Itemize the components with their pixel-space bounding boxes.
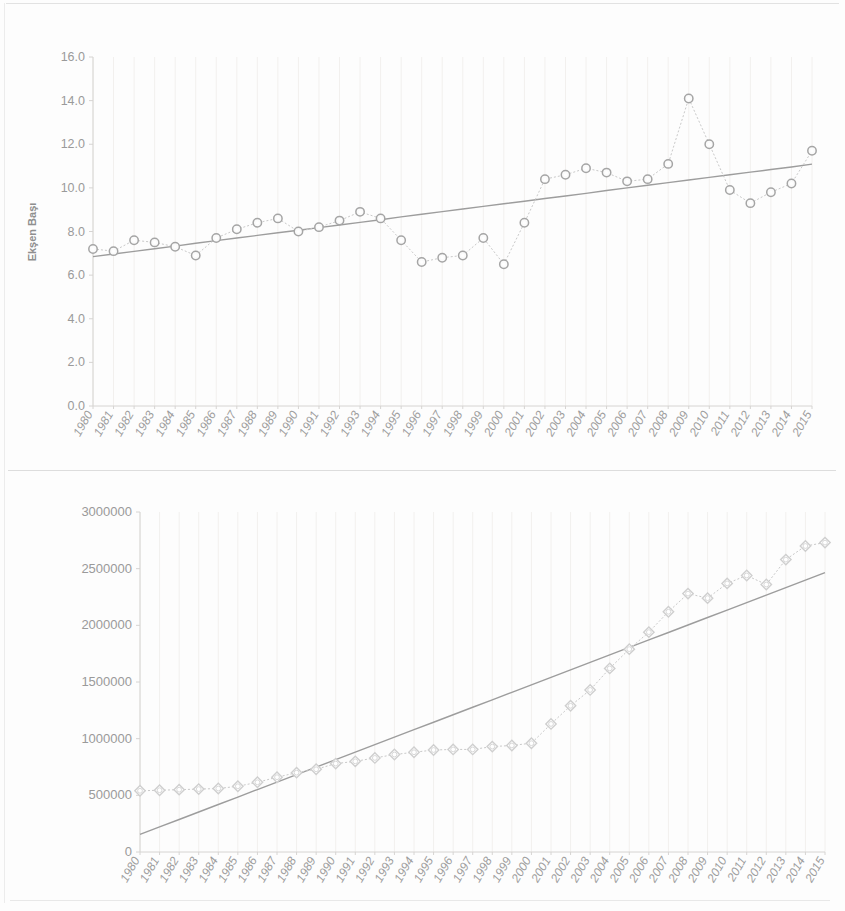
svg-text:1000000: 1000000 bbox=[81, 731, 132, 746]
svg-text:1999: 1999 bbox=[489, 854, 515, 884]
svg-text:1990: 1990 bbox=[276, 408, 302, 438]
svg-text:2012: 2012 bbox=[743, 854, 769, 885]
svg-text:14.0: 14.0 bbox=[61, 94, 85, 108]
bottom-chart-y-ticklabels: 0500000100000015000002000000250000030000… bbox=[81, 504, 132, 859]
svg-text:6.0: 6.0 bbox=[68, 268, 85, 282]
top-chart-gridlines bbox=[93, 57, 812, 406]
svg-text:4.0: 4.0 bbox=[68, 312, 85, 326]
svg-text:12.0: 12.0 bbox=[61, 137, 85, 151]
svg-text:1984: 1984 bbox=[152, 408, 178, 438]
svg-text:1985: 1985 bbox=[173, 408, 199, 438]
svg-text:2013: 2013 bbox=[762, 854, 788, 885]
svg-text:1988: 1988 bbox=[274, 854, 300, 884]
svg-text:1980: 1980 bbox=[117, 854, 143, 884]
svg-text:2007: 2007 bbox=[645, 853, 672, 885]
svg-text:2005: 2005 bbox=[606, 854, 632, 885]
svg-text:1992: 1992 bbox=[352, 854, 378, 884]
bottom-chart-axes bbox=[136, 512, 825, 855]
svg-text:2500000: 2500000 bbox=[81, 561, 132, 576]
svg-text:1981: 1981 bbox=[137, 855, 162, 885]
svg-text:2000000: 2000000 bbox=[81, 617, 132, 632]
svg-text:1989: 1989 bbox=[255, 408, 281, 438]
svg-text:1994: 1994 bbox=[358, 408, 384, 438]
svg-text:1985: 1985 bbox=[215, 854, 241, 884]
yield-per-unit-chart-svg: 0.02.04.06.08.010.012.014.016.0 19801981… bbox=[0, 0, 845, 462]
svg-text:2007: 2007 bbox=[624, 407, 651, 439]
svg-text:1991: 1991 bbox=[332, 855, 357, 885]
svg-text:2015: 2015 bbox=[789, 408, 815, 439]
svg-text:1993: 1993 bbox=[337, 408, 363, 438]
svg-text:500000: 500000 bbox=[89, 787, 132, 802]
bottom-chart-datapoints bbox=[135, 537, 830, 796]
bottom-chart-series-line bbox=[140, 543, 825, 791]
svg-text:1995: 1995 bbox=[378, 408, 404, 438]
svg-text:2002: 2002 bbox=[547, 854, 573, 885]
svg-text:1990: 1990 bbox=[313, 854, 339, 884]
svg-text:2000: 2000 bbox=[480, 408, 506, 439]
svg-text:1982: 1982 bbox=[111, 408, 137, 438]
yield-per-unit-chart: 0.02.04.06.08.010.012.014.016.0 19801981… bbox=[0, 0, 845, 462]
top-chart-trendline bbox=[93, 164, 812, 256]
svg-text:2001: 2001 bbox=[528, 855, 554, 886]
svg-text:1986: 1986 bbox=[193, 408, 219, 438]
svg-text:10.0: 10.0 bbox=[61, 181, 85, 195]
bottom-chart-trendline bbox=[140, 573, 825, 835]
svg-text:1983: 1983 bbox=[132, 408, 158, 438]
svg-text:1984: 1984 bbox=[195, 854, 221, 884]
top-chart-y-ticklabels: 0.02.04.06.08.010.012.014.016.0 bbox=[61, 50, 85, 413]
svg-text:1992: 1992 bbox=[317, 408, 343, 438]
svg-text:2006: 2006 bbox=[625, 854, 651, 885]
svg-text:2014: 2014 bbox=[768, 408, 794, 439]
svg-text:2.0: 2.0 bbox=[68, 355, 85, 369]
svg-text:2008: 2008 bbox=[665, 854, 691, 885]
svg-text:2013: 2013 bbox=[748, 408, 774, 439]
svg-text:1983: 1983 bbox=[176, 854, 202, 884]
chart-divider bbox=[8, 470, 836, 471]
svg-text:1989: 1989 bbox=[293, 854, 319, 884]
top-chart-y-axis-title: Ekşen Başı bbox=[26, 203, 38, 262]
svg-text:2008: 2008 bbox=[645, 408, 671, 439]
svg-text:Ekşen Başı: Ekşen Başı bbox=[26, 203, 38, 262]
svg-text:16.0: 16.0 bbox=[61, 50, 85, 64]
svg-text:1998: 1998 bbox=[469, 854, 495, 884]
svg-text:1986: 1986 bbox=[235, 854, 261, 884]
svg-text:2014: 2014 bbox=[782, 854, 808, 885]
figure-page: 0.02.04.06.08.010.012.014.016.0 19801981… bbox=[0, 0, 845, 911]
svg-text:1987: 1987 bbox=[214, 407, 240, 438]
top-chart-series-line bbox=[93, 98, 812, 264]
svg-text:1998: 1998 bbox=[440, 408, 466, 438]
svg-text:1993: 1993 bbox=[372, 854, 398, 884]
svg-text:2001: 2001 bbox=[501, 409, 527, 440]
svg-text:2009: 2009 bbox=[665, 408, 691, 439]
svg-text:2002: 2002 bbox=[522, 408, 548, 439]
svg-text:2004: 2004 bbox=[586, 854, 612, 885]
production-total-chart: 0500000100000015000002000000250000030000… bbox=[0, 472, 845, 911]
svg-text:2005: 2005 bbox=[583, 408, 609, 439]
svg-text:2012: 2012 bbox=[727, 408, 753, 439]
svg-text:1995: 1995 bbox=[411, 854, 437, 884]
svg-text:2015: 2015 bbox=[802, 854, 828, 885]
svg-text:1994: 1994 bbox=[391, 854, 417, 884]
svg-text:1996: 1996 bbox=[399, 408, 425, 438]
svg-text:1988: 1988 bbox=[234, 408, 260, 438]
svg-text:8.0: 8.0 bbox=[68, 225, 85, 239]
svg-text:2011: 2011 bbox=[724, 855, 750, 885]
production-total-chart-svg: 0500000100000015000002000000250000030000… bbox=[0, 472, 845, 911]
svg-text:1996: 1996 bbox=[430, 854, 456, 884]
svg-text:2004: 2004 bbox=[563, 408, 589, 439]
svg-text:2011: 2011 bbox=[707, 409, 733, 439]
svg-text:1997: 1997 bbox=[419, 407, 445, 438]
svg-text:2000: 2000 bbox=[508, 854, 534, 885]
svg-text:2003: 2003 bbox=[567, 854, 593, 885]
top-chart-datapoints bbox=[89, 94, 816, 268]
svg-text:2010: 2010 bbox=[704, 854, 730, 885]
bottom-chart-gridlines bbox=[140, 512, 825, 852]
svg-text:1500000: 1500000 bbox=[81, 674, 132, 689]
top-chart-axes bbox=[89, 57, 812, 409]
svg-text:2009: 2009 bbox=[684, 854, 710, 885]
svg-text:2006: 2006 bbox=[604, 408, 630, 439]
svg-text:1991: 1991 bbox=[296, 409, 321, 439]
svg-text:1999: 1999 bbox=[460, 408, 486, 438]
svg-text:1982: 1982 bbox=[156, 854, 182, 884]
svg-text:1981: 1981 bbox=[91, 409, 116, 439]
